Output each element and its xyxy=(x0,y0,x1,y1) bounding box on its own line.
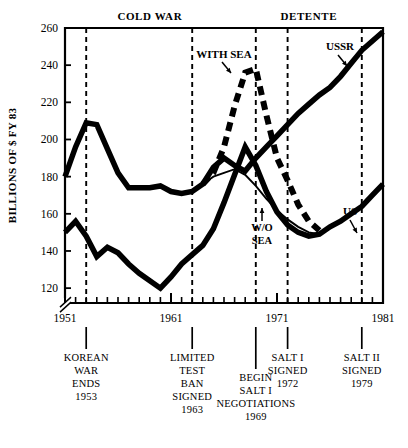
ussr-arrow-icon xyxy=(338,55,347,66)
y-tick-label: 200 xyxy=(41,133,59,145)
series-line-us xyxy=(65,147,383,288)
event-marker-label: 1963 xyxy=(181,404,203,415)
wo-sea-arrow-icon xyxy=(260,208,265,221)
event-marker-label: ENDS xyxy=(72,378,100,389)
x-tick-label: 1951 xyxy=(54,312,77,324)
x-tick-label: 1961 xyxy=(160,312,183,324)
x-tick-label: 1971 xyxy=(266,312,289,324)
chart-root: 1201401601802002202402601951196119711981… xyxy=(0,0,408,448)
event-marker-label: 1979 xyxy=(351,378,373,389)
event-marker-label: SALT I xyxy=(271,352,304,363)
event-marker-label: SIGNED xyxy=(342,365,382,376)
event-marker-label: 1972 xyxy=(277,378,299,389)
era-label: DETENTE xyxy=(280,10,337,22)
y-tick-label: 220 xyxy=(41,96,59,108)
x-tick-label: 1981 xyxy=(372,312,395,324)
event-marker-label: NEGOTIATIONS xyxy=(216,398,295,409)
event-marker-label: LIMITED xyxy=(170,352,215,363)
y-tick-label: 160 xyxy=(41,208,59,220)
event-marker-label: WAR xyxy=(74,365,98,376)
defense-spending-chart: 1201401601802002202402601951196119711981… xyxy=(0,0,408,448)
event-marker-label: SIGNED xyxy=(172,391,212,402)
y-tick-label: 120 xyxy=(41,282,59,294)
series-label-with-sea: WITH SEA xyxy=(196,48,251,60)
y-tick-label: 240 xyxy=(41,59,59,71)
event-marker-label: 1969 xyxy=(245,411,267,422)
event-marker-label: 1953 xyxy=(75,391,97,402)
y-axis-title: BILLIONS OF $ FY 83 xyxy=(6,108,18,224)
with-sea-arrow-icon xyxy=(222,62,231,73)
event-marker-label: KOREAN xyxy=(64,352,109,363)
event-marker-label: SIGNED xyxy=(268,365,308,376)
event-marker-label: SALT I xyxy=(240,385,273,396)
series-label-ussr: USSR xyxy=(326,40,355,52)
y-tick-label: 180 xyxy=(41,171,59,183)
us-arrow-icon xyxy=(350,220,357,233)
era-label: COLD WAR xyxy=(117,10,182,22)
event-marker-label: TEST xyxy=(179,365,205,376)
series-label-wo-sea-line2: SEA xyxy=(252,235,273,246)
event-marker-label: BAN xyxy=(181,378,204,389)
event-marker-label: SALT II xyxy=(344,352,380,363)
series-label-us: US xyxy=(343,205,357,217)
series-label-wo-sea: W/O xyxy=(251,222,273,233)
y-tick-label: 260 xyxy=(41,22,59,34)
y-tick-label: 140 xyxy=(41,245,59,257)
